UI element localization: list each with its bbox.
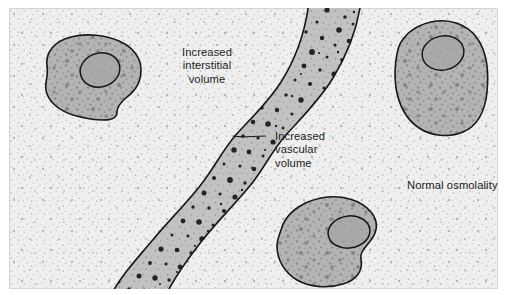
- diagram-panel: Increased interstitial volume Increased …: [9, 8, 498, 289]
- label-increased-vascular-volume: Increased vascular volume: [275, 130, 365, 170]
- label-normal-osmolality: Normal osmolality: [407, 179, 498, 192]
- diagram-stage: Increased interstitial volume Increased …: [0, 0, 511, 295]
- label-increased-interstitial-volume: Increased interstitial volume: [157, 46, 257, 86]
